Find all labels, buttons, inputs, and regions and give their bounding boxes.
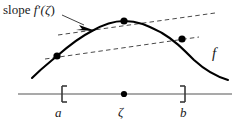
slope-paren-close: ): [50, 2, 54, 17]
curve-point-zeta: [120, 17, 127, 24]
axis-label-a: a: [55, 106, 62, 119]
axis-label-b: b: [180, 106, 187, 119]
function-curve: [32, 21, 228, 80]
slope-prime-open: ′(: [37, 2, 45, 17]
axis-point-zeta: [121, 91, 127, 97]
curve-point-a: [53, 52, 60, 59]
curve-label-f: f: [212, 46, 216, 61]
leader-line: [62, 15, 84, 25]
slope-text: slope: [3, 2, 30, 17]
curve-point-b: [178, 35, 185, 42]
leader-arrowhead: [76, 25, 96, 31]
slope-annotation-label: slope f′(ζ): [3, 3, 55, 16]
axis-label-zeta: ζ: [118, 105, 123, 118]
mvt-figure: slope f′(ζ) f a ζ b: [0, 0, 243, 128]
